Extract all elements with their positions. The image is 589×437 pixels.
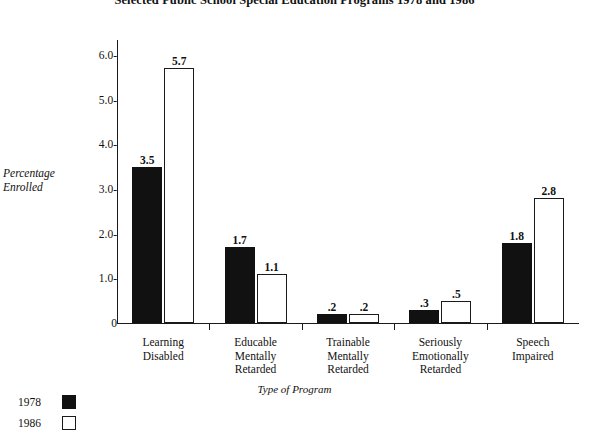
bar-value-label: 1.7: [232, 234, 246, 246]
legend-label: 1978: [18, 396, 62, 408]
x-axis-group-separator-tick: [302, 324, 303, 330]
bar-value-label: .5: [452, 288, 461, 300]
bar-1986-5: 2.8: [534, 198, 564, 323]
bar-1986-3: .2: [349, 314, 379, 323]
y-axis-title-line-2: Enrolled: [3, 180, 55, 194]
x-axis-line: [117, 323, 579, 324]
y-axis-tick-label: 2.0-: [99, 228, 117, 240]
y-axis-title-line-1: Percentage: [3, 166, 55, 180]
y-axis-title: Percentage Enrolled: [3, 166, 55, 195]
category-label-line: Retarded: [302, 363, 394, 377]
category-label-line: Mentally: [302, 350, 394, 364]
bar-value-label: .2: [328, 301, 337, 313]
x-axis-group-separator-tick: [394, 324, 395, 330]
bar-value-label: .3: [420, 297, 429, 309]
y-axis-tick-label: 6.0-: [99, 49, 117, 61]
category-label-line: Educable: [209, 336, 301, 350]
y-axis-tick-label: 4.0-: [99, 138, 117, 150]
category-label-line: Retarded: [209, 363, 301, 377]
bar-1978-5: 1.8: [502, 243, 532, 323]
y-axis-tick-labels: 6.0-5.0-4.0-3.0-2.0-1.0-0: [70, 0, 117, 437]
legend-label: 1986: [18, 417, 62, 429]
bar-value-label: 1.1: [264, 261, 278, 273]
bar-value-label: 2.8: [542, 185, 556, 197]
x-axis-category-label: EducableMentallyRetarded: [209, 336, 301, 377]
legend-swatch-filled-black-square: [62, 395, 76, 409]
bar-1978-2: 1.7: [225, 247, 255, 323]
bar-1986-4: .5: [441, 301, 471, 323]
bar-group: 3.55.7: [117, 40, 209, 323]
category-label-line: Learning: [117, 336, 209, 350]
x-axis-title: Type of Program: [0, 383, 589, 395]
bar-1986-1: 5.7: [164, 68, 194, 323]
y-axis-tick-label: 1.0-: [99, 272, 117, 284]
bar-group: 1.71.1: [209, 40, 301, 323]
x-axis-category-label: TrainableMentallyRetarded: [302, 336, 394, 377]
legend-item-1978: 1978: [18, 391, 76, 412]
category-label-line: Emotionally: [394, 350, 486, 364]
category-label-line: Trainable: [302, 336, 394, 350]
bar-1978-4: .3: [409, 310, 439, 323]
legend-item-1986: 1986: [18, 412, 76, 433]
bar-value-label: 3.5: [140, 154, 154, 166]
category-label-line: Speech: [487, 336, 579, 350]
category-label-line: Impaired: [487, 350, 579, 364]
x-axis-group-separator-tick: [209, 324, 210, 330]
bar-value-label: .2: [360, 301, 369, 313]
bar-1978-3: .2: [317, 314, 347, 323]
category-label-line: Mentally: [209, 350, 301, 364]
chart-legend: 19781986: [18, 391, 76, 433]
bar-1986-2: 1.1: [257, 274, 287, 323]
bar-group: .2.2: [302, 40, 394, 323]
y-axis-tick-label: 5.0-: [99, 94, 117, 106]
legend-swatch-outlined-white-square: [62, 416, 76, 430]
bar-value-label: 5.7: [172, 55, 186, 67]
bar-1978-1: 3.5: [132, 167, 162, 323]
plot-area: 3.55.71.71.1.2.2.3.51.82.8: [117, 40, 579, 323]
bar-group: .3.5: [394, 40, 486, 323]
x-axis-group-separator-tick: [487, 324, 488, 330]
category-label-line: Retarded: [394, 363, 486, 377]
category-label-line: Seriously: [394, 336, 486, 350]
x-axis-category-label: SpeechImpaired: [487, 336, 579, 363]
y-axis-tick-label: 3.0-: [99, 183, 117, 195]
bar-group: 1.82.8: [487, 40, 579, 323]
bar-value-label: 1.8: [510, 230, 524, 242]
x-axis-category-label: SeriouslyEmotionallyRetarded: [394, 336, 486, 377]
category-label-line: Disabled: [117, 350, 209, 364]
x-axis-category-label: LearningDisabled: [117, 336, 209, 363]
